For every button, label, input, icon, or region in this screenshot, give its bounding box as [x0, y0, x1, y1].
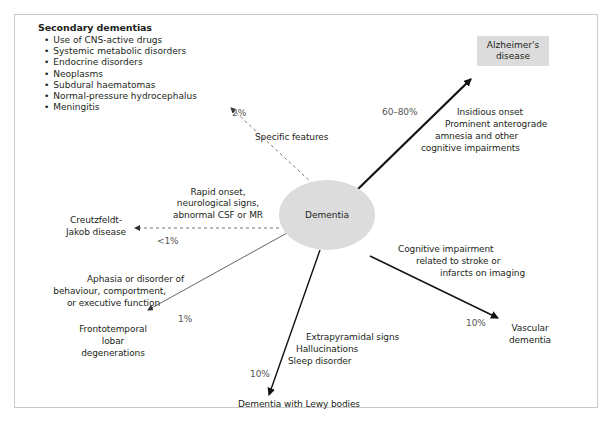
ftld-label-2: lobar [70, 336, 156, 348]
list-item: Neoplasms [44, 69, 197, 80]
dementia-node: Dementia [279, 180, 375, 250]
vascular-label-2: dementia [500, 335, 560, 347]
cjd-percent: <1% [157, 236, 179, 248]
cjd-feature-1: Rapid onset, [172, 187, 264, 199]
arrow-lewy [269, 250, 320, 395]
alzheimer-feature-4: cognitive impairments [421, 143, 520, 155]
ftld-label-3: degenerations [70, 348, 156, 360]
alzheimer-feature-3: amnesia and other [435, 131, 518, 143]
cjd-label-2: Jakob disease [58, 227, 134, 239]
vascular-feature-2: related to stroke or [416, 256, 500, 268]
lewy-label: Dementia with Lewy bodies [238, 399, 360, 411]
alzheimer-feature-2: Prominent anterograde [445, 119, 547, 131]
lewy-feature-3: Sleep disorder [288, 356, 351, 368]
cjd-feature-3: abnormal CSF or MR [163, 210, 273, 222]
secondary-dementias-title: Secondary dementias [38, 22, 152, 34]
vascular-feature-1: Cognitive impairment [398, 244, 494, 256]
list-item: Subdural haematomas [44, 80, 197, 91]
dementia-label: Dementia [305, 210, 349, 220]
ftld-feature-2: behaviour, comportment, [50, 286, 166, 298]
cjd-feature-2: neurological signs, [166, 198, 270, 210]
cjd-label-1: Creutzfeldt- [58, 215, 134, 227]
alzheimer-percent: 60–80% [382, 107, 417, 119]
alzheimer-label-2: disease [487, 51, 539, 62]
alzheimer-feature-1: Insidious onset [457, 107, 523, 119]
alzheimer-label-1: Alzheimer's [487, 40, 539, 51]
ftld-percent: 1% [178, 314, 192, 326]
secondary-percent: 2% [232, 108, 246, 120]
vascular-label-1: Vascular [500, 323, 560, 335]
vascular-percent: 10% [466, 318, 486, 330]
list-item: Normal-pressure hydrocephalus [44, 91, 197, 102]
vascular-feature-3: infarcts on imaging [440, 268, 525, 280]
ftld-label-1: Frontotemporal [70, 324, 156, 336]
lewy-percent: 10% [250, 369, 270, 381]
lewy-feature-1: Extrapyramidal signs [306, 332, 399, 344]
ftld-feature-1: Aphasia or disorder of [68, 274, 184, 286]
lewy-feature-2: Hallucinations [296, 344, 358, 356]
list-item: Use of CNS-active drugs [44, 35, 197, 46]
list-item: Systemic metabolic disorders [44, 46, 197, 57]
ftld-feature-3: or executive function [44, 298, 160, 310]
list-item: Meningitis [44, 102, 197, 113]
alzheimer-box: Alzheimer's disease [477, 36, 549, 66]
secondary-feature: Specific features [255, 132, 328, 144]
list-item: Endocrine disorders [44, 57, 197, 68]
secondary-dementias-list: Use of CNS-active drugs Systemic metabol… [44, 35, 197, 113]
